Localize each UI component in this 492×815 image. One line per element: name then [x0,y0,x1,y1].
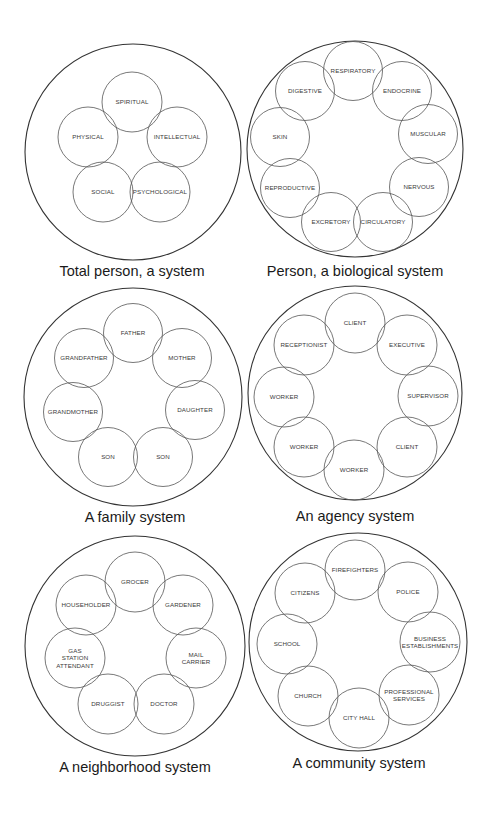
subsystem-label: CITIZENS [291,589,320,596]
diagram-agency: CLIENTEXECUTIVESUPERVISORCLIENTWORKERWOR… [248,286,462,524]
subsystem-label: SCHOOL [274,640,301,647]
subsystem-label: CLIENT [396,443,419,450]
diagram-caption: A family system [85,509,186,525]
subsystem-node: ENDOCRINE [373,62,432,121]
subsystem-node: NERVOUS [390,158,449,217]
subsystem-node: CHURCH [278,666,338,726]
subsystem-label: DAUGHTER [177,406,213,413]
subsystem-label: EXCRETORY [311,218,350,225]
subsystem-label: BUSINESS [414,635,446,642]
subsystem-label: SON [156,453,170,460]
subsystem-label: HOUSEHOLDER [62,601,111,608]
subsystem-node: PHYSICAL [58,107,118,167]
diagram-caption: Person, a biological system [267,263,444,279]
subsystem-node: CIRCULATORY [354,193,413,252]
subsystem-label: INTELLECTUAL [154,133,201,140]
subsystem-label: GARDENER [165,601,201,608]
system-boundary-circle [25,44,241,260]
subsystem-label: FATHER [121,329,146,336]
subsystem-node: BUSINESSESTABLISHMENTS [400,612,460,672]
subsystem-label: PROFESSIONAL [384,688,434,695]
subsystem-node: MOTHER [153,329,212,388]
subsystem-node: PROFESSIONALSERVICES [379,665,439,725]
subsystem-node: MUSCULAR [399,105,458,164]
subsystem-label: RECEPTIONIST [281,341,328,348]
subsystem-node: SKIN [251,108,310,167]
systems-diagram-canvas: SPIRITUALINTELLECTUALPSYCHOLOGICALSOCIAL… [0,0,492,815]
subsystem-label: WORKER [290,443,319,450]
subsystem-node: WORKER [274,417,334,477]
subsystem-node: DAUGHTER [166,381,225,440]
subsystem-label: FIREFIGHTERS [332,566,379,573]
subsystem-node: DIGESTIVE [276,62,335,121]
subsystem-node: HOUSEHOLDER [56,575,116,635]
subsystem-label: GAS [68,647,81,654]
subsystem-label: REPRODUCTIVE [265,184,315,191]
subsystem-label: GRANDFATHER [60,354,108,361]
subsystem-label: SUPERVISOR [407,392,449,399]
subsystem-node: RESPIRATORY [324,42,383,101]
subsystem-label: PSYCHOLOGICAL [133,188,188,195]
diagram-caption: A neighborhood system [59,759,211,775]
subsystem-label: ENDOCRINE [383,87,421,94]
subsystem-node: GRANDFATHER [55,329,114,388]
subsystem-node: SON [79,428,138,487]
subsystem-label: SON [101,453,115,460]
subsystem-label: CHURCH [294,692,321,699]
subsystem-node: EXCRETORY [302,193,361,252]
subsystem-node: MAILCARRIER [166,628,226,688]
subsystem-node: SPIRITUAL [102,72,162,132]
subsystem-label: STATION [62,654,89,661]
diagram-biological: RESPIRATORYENDOCRINEMUSCULARNERVOUSCIRCU… [247,41,463,279]
subsystem-label: ATTENDANT [56,662,94,669]
diagram-total-person: SPIRITUALINTELLECTUALPSYCHOLOGICALSOCIAL… [25,44,241,279]
subsystem-label: MAIL [189,651,204,658]
subsystem-node: WORKER [254,367,314,427]
subsystem-label: SKIN [273,133,288,140]
diagram-caption: Total person, a system [59,263,204,279]
subsystem-label: POLICE [396,588,419,595]
subsystem-node: SON [134,428,193,487]
diagram-family: FATHERMOTHERDAUGHTERSONSONGRANDMOTHERGRA… [24,288,242,525]
subsystem-label: WORKER [270,393,299,400]
subsystem-label: MUSCULAR [410,130,446,137]
subsystem-node: DOCTOR [134,674,194,734]
subsystem-label: MOTHER [168,354,196,361]
subsystem-node: GROCER [105,552,165,612]
subsystem-label: SOCIAL [91,188,115,195]
diagram-neighborhood: GROCERGARDENERMAILCARRIERDOCTORDRUGGISTG… [25,536,245,775]
subsystem-label: EXECUTIVE [389,341,425,348]
subsystem-node: DRUGGIST [78,674,138,734]
subsystem-node: CLIENT [377,417,437,477]
subsystem-node: SOCIAL [73,162,133,222]
subsystem-label: SERVICES [393,695,425,702]
diagram-caption: A community system [293,755,426,771]
subsystem-node: INTELLECTUAL [147,107,207,167]
subsystem-label: NERVOUS [403,183,434,190]
subsystem-node: GASSTATIONATTENDANT [45,628,105,688]
subsystem-label: GRANDMOTHER [48,408,99,415]
subsystem-label: WORKER [340,466,369,473]
subsystem-node: REPRODUCTIVE [261,159,320,218]
subsystem-node: RECEPTIONIST [274,315,334,375]
system-boundary-circle [25,536,245,756]
diagram-community: FIREFIGHTERSPOLICEBUSINESSESTABLISHMENTS… [249,533,467,771]
subsystem-node: FIREFIGHTERS [325,540,385,600]
subsystem-label: PHYSICAL [72,133,104,140]
subsystem-label: CIRCULATORY [361,218,406,225]
subsystem-label: DOCTOR [150,700,178,707]
subsystem-label: CARRIER [182,658,211,665]
subsystem-label: CITY HALL [343,714,376,721]
subsystem-label: GROCER [121,578,149,585]
subsystem-label: SPIRITUAL [116,98,149,105]
diagram-caption: An agency system [296,508,414,524]
subsystem-label: DRUGGIST [91,700,125,707]
subsystem-node: FATHER [104,304,163,363]
subsystem-node: GRANDMOTHER [44,383,103,442]
subsystem-label: CLIENT [344,319,367,326]
subsystem-node: PSYCHOLOGICAL [130,162,190,222]
subsystem-label: ESTABLISHMENTS [402,642,459,649]
subsystem-node: POLICE [378,562,438,622]
subsystem-node: GARDENER [153,575,213,635]
subsystem-label: RESPIRATORY [331,67,376,74]
